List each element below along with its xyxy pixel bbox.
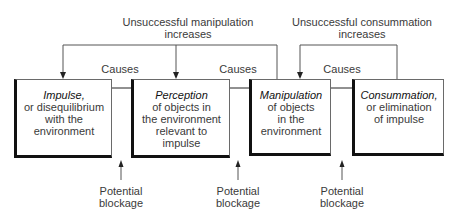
- blockage-label-line2: blockage: [208, 197, 268, 209]
- stage-title: Manipulation: [260, 89, 322, 101]
- blockage-label-line2: blockage: [91, 197, 151, 209]
- causes-label-2: Causes: [218, 63, 258, 75]
- arrowhead-down-icon: [297, 72, 303, 79]
- feedback-label-consummation: Unsuccessful consummation increases: [282, 16, 442, 40]
- stage-description: of objects in the environment relevant t…: [142, 101, 221, 149]
- feedback-label-line2: increases: [108, 28, 268, 40]
- stage-description: or disequilibrium with the environment: [24, 101, 104, 137]
- causes-label-1: Causes: [100, 63, 140, 75]
- blockage-label-line1: Potential: [312, 185, 372, 197]
- arrowhead-up-icon: [236, 160, 241, 167]
- arrowhead-up-icon: [119, 160, 124, 167]
- blockage-label-2: Potential blockage: [208, 185, 268, 209]
- stage-box-perception: Perception of objects in the environment…: [131, 79, 230, 158]
- arrowhead-up-icon: [340, 160, 345, 167]
- blockage-label-1: Potential blockage: [91, 185, 151, 209]
- stage-description: or elimination of impulse: [366, 101, 431, 125]
- blockage-label-3: Potential blockage: [312, 185, 372, 209]
- blockage-label-line1: Potential: [208, 185, 268, 197]
- blockage-label-line2: blockage: [312, 197, 372, 209]
- stage-title: Impulse,: [43, 89, 85, 101]
- blockage-label-line1: Potential: [91, 185, 151, 197]
- stage-description: of objects in the environment: [261, 101, 322, 137]
- feedback-label-line1: Unsuccessful manipulation: [108, 16, 268, 28]
- feedback-label-line1: Unsuccessful consummation: [282, 16, 442, 28]
- stage-title: Consummation,: [360, 89, 437, 101]
- stage-box-impulse: Impulse, or disequilibrium with the envi…: [14, 79, 112, 158]
- feedback-label-line2: increases: [282, 28, 442, 40]
- feedback-label-manipulation: Unsuccessful manipulation increases: [108, 16, 268, 40]
- stage-box-consummation: Consummation, or elimination of impulse: [352, 79, 444, 156]
- arrowhead-down-icon: [173, 72, 179, 79]
- causes-label-3: Causes: [322, 63, 362, 75]
- arrowhead-down-icon: [60, 72, 66, 79]
- stage-title: Perception: [155, 89, 208, 101]
- stage-box-manipulation: Manipulation of objects in the environme…: [249, 79, 331, 156]
